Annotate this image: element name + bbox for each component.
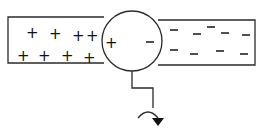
plus-charge: + — [26, 24, 39, 42]
plus-charge: + — [49, 25, 62, 43]
plus-charge: + — [83, 49, 96, 67]
arrow-head-icon — [152, 118, 164, 126]
plus-charge: + — [72, 27, 85, 45]
plus-charge: + — [38, 47, 51, 65]
plus-charge: + — [86, 27, 99, 45]
charge-diagram: ++++++++ + — [0, 0, 260, 138]
plus-charge: + — [17, 47, 30, 65]
plus-charge: + — [61, 47, 74, 65]
right-bar-charges — [170, 27, 250, 54]
left-bar-charges: ++++++++ — [17, 24, 99, 67]
ground-wire — [132, 71, 153, 108]
curved-arrow-icon — [138, 112, 158, 118]
right-bar — [158, 20, 255, 65]
circle-plus-label: + — [105, 34, 118, 52]
